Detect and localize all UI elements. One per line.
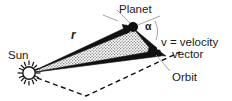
swept-area-triangle <box>30 27 163 72</box>
planet-dot-icon <box>128 22 138 32</box>
planet-label: Planet <box>119 3 152 15</box>
radius-label: r <box>71 29 76 42</box>
velocity-label-line1: v = velocity <box>161 36 218 48</box>
alpha-angle-label: α <box>145 21 151 32</box>
planet-leader-secondary <box>103 15 118 21</box>
orbital-geometry-figure: Planet Sun r α v = velocity vector Orbit <box>0 0 232 101</box>
velocity-vector-label: v = velocity vector <box>161 36 218 60</box>
velocity-label-line2: vector <box>161 48 218 60</box>
swept-area-fill <box>30 27 163 72</box>
sun-icon <box>18 61 41 86</box>
sun-label: Sun <box>8 49 28 61</box>
alpha-arc <box>155 21 157 40</box>
orbit-label: Orbit <box>172 71 197 83</box>
sun-disc <box>23 67 35 79</box>
